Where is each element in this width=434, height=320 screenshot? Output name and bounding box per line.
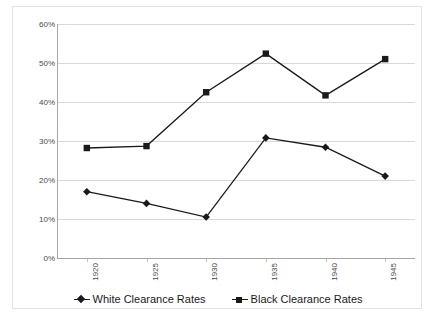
- x-tick-label: 1920: [91, 263, 100, 281]
- x-tick-label: 1930: [210, 263, 219, 281]
- x-axis-tick-labels: 192019251930193519401945: [57, 259, 415, 291]
- chart-legend: White Clearance RatesBlack Clearance Rat…: [13, 293, 423, 306]
- chart-container: 0%10%20%30%40%50%60% 1920192519301935194…: [12, 6, 422, 309]
- series-line-1: [87, 54, 385, 148]
- data-point: [143, 143, 149, 149]
- x-tick-label: 1940: [330, 263, 339, 281]
- y-tick-label: 50%: [15, 59, 55, 68]
- data-point: [83, 188, 91, 196]
- legend-label: White Clearance Rates: [93, 293, 206, 306]
- x-tick-label: 1945: [389, 263, 398, 281]
- x-tickmark: [266, 259, 267, 262]
- y-tick-label: 10%: [15, 215, 55, 224]
- data-point: [263, 50, 269, 56]
- data-point: [382, 56, 388, 62]
- series-layer: [57, 24, 415, 258]
- x-tick-label: 1935: [270, 263, 279, 281]
- x-tickmark: [206, 259, 207, 262]
- y-tick-label: 60%: [15, 20, 55, 29]
- data-point: [322, 92, 328, 98]
- y-tick-label: 40%: [15, 98, 55, 107]
- legend-entry[interactable]: Black Clearance Rates: [232, 293, 363, 306]
- data-point: [203, 89, 209, 95]
- y-tick-label: 0%: [15, 254, 55, 263]
- square-marker-icon: [232, 295, 248, 305]
- x-tickmark: [147, 259, 148, 262]
- x-tickmark: [385, 259, 386, 262]
- y-axis-tick-labels: 0%10%20%30%40%50%60%: [13, 24, 55, 258]
- data-point: [143, 200, 151, 208]
- x-tick-label: 1925: [151, 263, 160, 281]
- diamond-marker-icon: [74, 295, 90, 305]
- x-tickmark: [326, 259, 327, 262]
- data-point: [84, 145, 90, 151]
- series-line-0: [87, 138, 385, 217]
- legend-label: Black Clearance Rates: [251, 293, 363, 306]
- legend-entry[interactable]: White Clearance Rates: [74, 293, 206, 306]
- data-point: [322, 143, 330, 151]
- plot-area: [57, 24, 415, 258]
- data-point: [381, 172, 389, 180]
- y-tick-label: 20%: [15, 176, 55, 185]
- y-tick-label: 30%: [15, 137, 55, 146]
- x-tickmark: [87, 259, 88, 262]
